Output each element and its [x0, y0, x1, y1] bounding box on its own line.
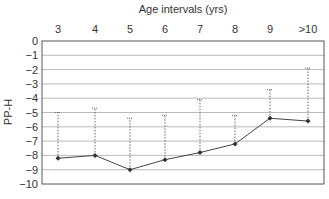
y-axis-title: PP-H [2, 99, 14, 125]
x-tick-label: >10 [299, 23, 318, 35]
y-tick-label: −9 [25, 164, 38, 176]
data-point [56, 156, 61, 161]
y-tick-label: −2 [25, 64, 38, 76]
x-axis-ticks: 3456789>10 [55, 23, 317, 35]
data-line [58, 118, 308, 169]
y-tick-label: −7 [25, 135, 38, 147]
data-point [128, 167, 133, 172]
y-tick-label: −3 [25, 78, 38, 90]
y-tick-label: −1 [25, 49, 38, 61]
chart: Age intervals (yrs) 3456789>10 0−1−2−3−4… [0, 0, 329, 199]
data-point [306, 119, 311, 124]
y-tick-label: −5 [25, 107, 38, 119]
data-point [93, 153, 98, 158]
x-tick-label: 9 [267, 23, 273, 35]
x-tick-label: 8 [232, 23, 238, 35]
data-point [198, 150, 203, 155]
x-tick-label: 6 [162, 23, 168, 35]
y-tick-label: −4 [25, 92, 38, 104]
y-tick-label: −6 [25, 121, 38, 133]
x-axis-title: Age intervals (yrs) [139, 3, 228, 15]
data-point [163, 157, 168, 162]
x-tick-label: 7 [197, 23, 203, 35]
y-tick-label: −10 [19, 178, 38, 190]
range-whiskers [55, 68, 311, 170]
x-tick-label: 5 [127, 23, 133, 35]
y-axis-ticks: 0−1−2−3−4−5−6−7−8−9−10 [19, 35, 38, 190]
x-tick-label: 3 [55, 23, 61, 35]
y-tick-label: 0 [32, 35, 38, 47]
x-tick-label: 4 [92, 23, 98, 35]
y-tick-label: −8 [25, 149, 38, 161]
data-markers [56, 116, 311, 172]
gridlines [42, 55, 324, 169]
